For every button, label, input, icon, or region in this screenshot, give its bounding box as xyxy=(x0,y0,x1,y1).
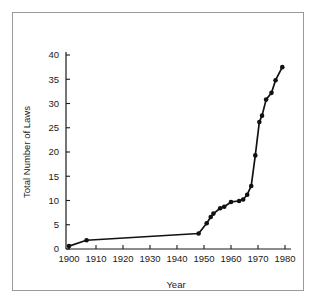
x-tick-label: 1950 xyxy=(193,253,214,264)
data-point-marker xyxy=(237,199,242,204)
y-tick-label: 25 xyxy=(48,122,59,133)
data-point-marker xyxy=(67,244,72,249)
data-point-marker xyxy=(196,231,201,236)
data-point-marker xyxy=(84,238,89,243)
data-point-marker xyxy=(241,197,246,202)
x-axis-tick-labels: 190019101920193019401950196019701980 xyxy=(58,253,295,264)
x-tick-label: 1970 xyxy=(247,253,268,264)
line-chart: 0510152025303540 19001910192019301940195… xyxy=(0,0,322,305)
data-point-marker xyxy=(222,205,227,210)
data-point-marker xyxy=(245,192,250,197)
x-axis-title: Year xyxy=(166,279,185,290)
data-point-marker xyxy=(264,97,269,102)
y-axis-title: Total Number of Laws xyxy=(21,106,32,198)
y-tick-label: 15 xyxy=(48,171,59,182)
y-tick-label: 20 xyxy=(48,146,59,157)
data-point-marker xyxy=(253,153,258,158)
y-tick-label: 5 xyxy=(54,219,59,230)
data-point-marker xyxy=(211,211,216,216)
y-tick-label: 30 xyxy=(48,98,59,109)
data-point-marker xyxy=(257,120,262,125)
x-tick-label: 1930 xyxy=(139,253,160,264)
data-point-marker xyxy=(273,78,278,83)
x-tick-label: 1920 xyxy=(112,253,133,264)
data-series-line xyxy=(69,67,282,246)
x-tick-label: 1940 xyxy=(166,253,187,264)
data-point-marker xyxy=(249,184,254,189)
x-tick-label: 1900 xyxy=(58,253,79,264)
data-point-marker xyxy=(269,91,274,96)
x-tick-label: 1910 xyxy=(85,253,106,264)
data-point-marker xyxy=(218,206,223,211)
y-tick-label: 10 xyxy=(48,195,59,206)
chart-canvas: 0510152025303540 19001910192019301940195… xyxy=(0,0,322,305)
x-tick-label: 1960 xyxy=(220,253,241,264)
data-point-marker xyxy=(260,113,265,118)
data-point-marker xyxy=(280,65,285,70)
data-series-markers xyxy=(67,65,285,249)
data-point-marker xyxy=(229,200,234,205)
y-axis-tick-labels: 0510152025303540 xyxy=(48,49,59,254)
y-tick-label: 35 xyxy=(48,74,59,85)
x-tick-label: 1980 xyxy=(274,253,295,264)
y-tick-label: 40 xyxy=(48,49,59,60)
data-point-marker xyxy=(204,221,209,226)
